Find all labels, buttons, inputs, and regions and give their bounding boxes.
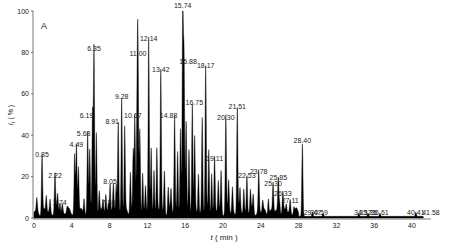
peak-label: 28.40 — [294, 137, 312, 144]
peak-label: 41.58 — [422, 209, 440, 216]
peak-label: 12.14 — [140, 35, 158, 42]
peak-label: 4.49 — [70, 141, 84, 148]
peak-label: 20.30 — [217, 114, 235, 121]
x-tick-label: 36 — [370, 222, 378, 229]
y-tick-label: 0 — [25, 215, 29, 222]
x-tick-label: 24 — [257, 222, 265, 229]
x-axis-label: t ( min ) — [210, 233, 237, 242]
x-tick-label: 12 — [144, 222, 152, 229]
peak-label: 7.88 — [102, 199, 116, 206]
peak-label: 8.05 — [103, 178, 117, 185]
y-tick-label: 80 — [21, 49, 29, 56]
peak-label: 15.88 — [179, 58, 197, 65]
peak-label: 27.11 — [282, 197, 299, 204]
peak-label: 16.75 — [186, 99, 204, 106]
peak-label: 6.35 — [87, 45, 101, 52]
peak-label: 8.91 — [105, 118, 119, 125]
x-tick-label: 32 — [333, 222, 341, 229]
y-axis-label: Ir ( % ) — [7, 105, 16, 125]
x-tick-label: 4 — [70, 222, 74, 229]
peak-label: 21.51 — [229, 103, 247, 110]
peak-label: 25.30 — [264, 180, 282, 187]
peak-label: 11.00 — [129, 50, 146, 57]
peak-label: 2.22 — [48, 172, 62, 179]
peak-label: 0.85 — [35, 151, 49, 158]
x-tick-label: 16 — [181, 222, 189, 229]
peak-label: 25.85 — [270, 174, 288, 181]
y-tick-label: 20 — [21, 173, 29, 180]
peak-label: 30.59 — [310, 209, 328, 216]
peak-label: 14.88 — [160, 112, 178, 119]
peak-label: 6.19 — [80, 112, 94, 119]
x-tick-label: 28 — [295, 222, 303, 229]
x-tick-label: 20 — [219, 222, 227, 229]
chromatogram-chart: 0204060801000481216202428323640 0.852.22… — [0, 0, 450, 249]
peak-label: 23.78 — [250, 168, 268, 175]
peak-label: 15.74 — [174, 2, 192, 9]
peak-label: 13.42 — [152, 66, 170, 73]
peak-label: 18.17 — [197, 62, 215, 69]
x-tick-label: 8 — [108, 222, 112, 229]
peak-label: 36.61 — [371, 209, 389, 216]
y-tick-label: 60 — [21, 90, 29, 97]
peak-label: 2.74 — [53, 199, 67, 206]
x-tick-label: 0 — [32, 222, 36, 229]
peak-label: 10.67 — [124, 112, 142, 119]
y-tick-label: 40 — [21, 132, 29, 139]
panel-label: A — [41, 21, 47, 31]
x-tick-label: 40 — [408, 222, 416, 229]
peak-label: 5.68 — [77, 130, 91, 137]
peak-label: 19.11 — [206, 155, 223, 162]
y-tick-label: 100 — [17, 8, 29, 15]
peak-label: 9.28 — [115, 93, 129, 100]
